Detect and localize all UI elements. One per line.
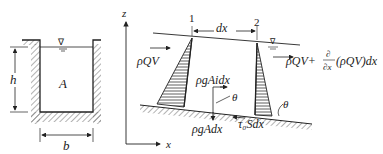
section-2-label: 2	[254, 16, 260, 28]
water-surface-symbol-profile: ∇	[269, 37, 276, 46]
z-axis-label: z	[121, 7, 127, 19]
bottom-hatch	[31, 112, 101, 122]
outflow-momentum-suffix: (ρQV)dx	[336, 54, 378, 68]
width-label: b	[63, 138, 70, 153]
area-label: A	[58, 76, 67, 91]
inflow-momentum-label: ρQV	[136, 54, 160, 68]
channel-cross-section: ∇ h A b	[9, 37, 101, 153]
theta-label-bed: θ	[283, 98, 289, 110]
outflow-momentum-prefix: ρQV+	[285, 54, 316, 68]
control-volume-diagram: z x ∇ 1 2 dx ρQV ρQV+ ∂ ∂x (ρQV)d	[121, 7, 378, 150]
outflow-partial-numerator: ∂	[326, 49, 330, 59]
x-axis-label: x	[165, 138, 171, 150]
theta-label-inner: θ	[232, 91, 238, 103]
outflow-partial-denominator: ∂x	[323, 62, 331, 72]
open-channel-momentum-diagram: ∇ h A b z x ∇	[0, 0, 383, 154]
gravity-component-lines	[213, 87, 226, 113]
left-bank-hatch	[22, 40, 40, 45]
dx-label: dx	[216, 21, 228, 35]
depth-label: h	[10, 72, 17, 87]
weight-label: ρgAdx	[191, 122, 223, 136]
pressure-distribution-section-2	[255, 43, 272, 116]
water-surface-symbol: ∇	[57, 37, 65, 47]
gravity-component-label: ρgAidx	[195, 73, 230, 87]
shear-force-label: τ₀Sdx	[238, 117, 264, 131]
section-1-label: 1	[189, 12, 195, 24]
theta-leader	[216, 96, 230, 103]
